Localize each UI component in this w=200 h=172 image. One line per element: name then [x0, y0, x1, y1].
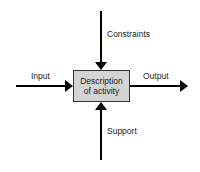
constraints-label: Constraints	[107, 29, 150, 39]
constraints-arrow	[95, 11, 107, 70]
activity-box: Description of activity	[73, 70, 130, 102]
idef0-diagram: Description of activity Input Output Con…	[0, 0, 200, 172]
input-label: Input	[31, 71, 50, 81]
activity-line-1: Description	[80, 76, 123, 86]
output-label: Output	[143, 71, 169, 81]
support-label: Support	[107, 126, 137, 136]
support-arrow	[95, 102, 107, 160]
input-arrow	[16, 80, 73, 92]
output-arrow	[130, 80, 188, 92]
activity-line-2: of activity	[84, 86, 119, 96]
